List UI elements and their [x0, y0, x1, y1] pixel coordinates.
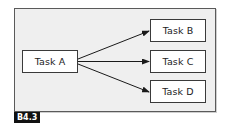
task-c-box: Task C: [150, 50, 206, 73]
figure-label-badge: B4.3: [14, 112, 40, 123]
task-d-box: Task D: [150, 80, 206, 103]
task-a-box: Task A: [22, 50, 78, 73]
task-d-label: Task D: [162, 86, 193, 97]
task-c-label: Task C: [163, 56, 194, 67]
task-b-label: Task B: [163, 25, 194, 36]
task-a-label: Task A: [35, 56, 66, 67]
task-b-box: Task B: [150, 19, 206, 42]
